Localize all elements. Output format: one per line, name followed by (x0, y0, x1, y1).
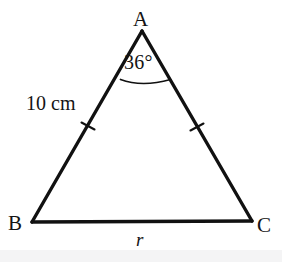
geometry-figure: A B C 36° 10 cm r (0, 0, 282, 262)
vertex-label-c: C (257, 215, 271, 236)
angle-label-36-degrees: 36° (124, 52, 153, 72)
angle-arc-a (121, 80, 171, 84)
side-label-ab-length: 10 cm (26, 93, 75, 113)
vertex-label-a: A (133, 9, 148, 30)
side-label-bc-variable: r (136, 230, 143, 249)
vertex-label-b: B (8, 213, 22, 234)
bottom-edge-strip (0, 250, 282, 262)
side-bc-line (32, 221, 252, 222)
triangle-drawing (0, 0, 282, 262)
